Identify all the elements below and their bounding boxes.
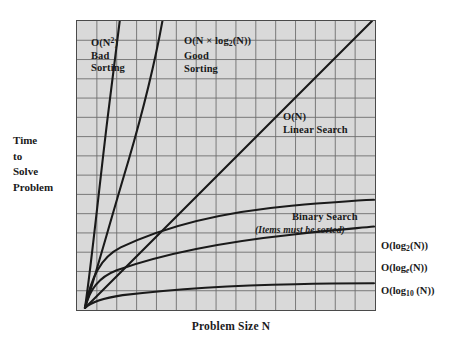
y-axis-title-line4: Problem [13, 180, 53, 196]
plot-area: O(N2) Bad Sorting O(N × log2(N)) Good So… [76, 20, 376, 311]
annotation-binary-search: Binary Search (Items must be sorted) [292, 211, 358, 236]
annotation-quadratic-line3: Sorting [91, 62, 125, 75]
annotation-linearithmic-line2: Good [184, 50, 251, 63]
y-axis-title-line1: Time [13, 133, 53, 149]
annotation-linearithmic-prefix: O(N × log [184, 35, 229, 46]
y-axis-title-line2: to [13, 149, 53, 165]
annotation-linearithmic: O(N × log2(N)) Good Sorting [184, 35, 251, 76]
side-label-log10-suffix: (N)) [414, 285, 435, 296]
annotation-linear-line2: Linear Search [283, 124, 348, 137]
side-label-log10-subscript: 10 [406, 289, 414, 298]
annotation-linearithmic-line3: Sorting [184, 63, 251, 76]
side-label-loge-suffix: (N)) [409, 262, 427, 273]
annotation-quadratic-line1: O(N2) [91, 35, 125, 50]
annotation-linearithmic-line1: O(N × log2(N)) [184, 35, 251, 50]
curve-log10 [85, 283, 374, 308]
annotation-binary-line2: (Items must be sorted) [255, 224, 358, 237]
x-axis-title: Problem Size N [0, 320, 462, 332]
complexity-chart-figure: O(N2) Bad Sorting O(N × log2(N)) Good So… [0, 0, 462, 345]
y-axis-title-line3: Solve [13, 164, 53, 180]
annotation-linear-line1: O(N) [283, 111, 348, 124]
annotation-linearithmic-suffix: (N)) [233, 35, 251, 46]
y-axis-title: Time to Solve Problem [13, 133, 53, 195]
side-label-log10-prefix: O(log [381, 285, 406, 296]
annotation-linear: O(N) Linear Search [283, 111, 348, 136]
annotation-quadratic-line2: Bad [91, 50, 125, 63]
side-label-log2: O(log2(N)) [381, 240, 428, 253]
side-label-log10: O(log10 (N)) [381, 285, 434, 298]
side-label-loge: O(loge(N)) [381, 262, 428, 275]
side-label-log2-suffix: (N)) [410, 240, 428, 251]
annotation-quadratic: O(N2) Bad Sorting [91, 35, 125, 75]
annotation-quadratic-suffix: ) [114, 37, 118, 48]
side-label-log2-prefix: O(log [381, 240, 406, 251]
side-label-loge-prefix: O(log [381, 262, 406, 273]
annotation-binary-line1: Binary Search [292, 211, 358, 224]
curve-loge [85, 227, 374, 308]
annotation-quadratic-prefix: O(N [91, 37, 111, 48]
